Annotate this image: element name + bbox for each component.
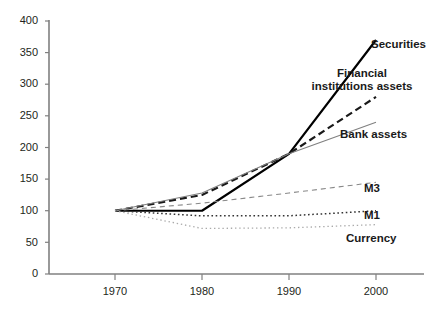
- x-tick-label-2000: 2000: [351, 285, 401, 297]
- x-tick-label-1990: 1990: [264, 285, 314, 297]
- series-label-currency: Currency: [346, 232, 397, 245]
- y-tick-label-100: 100: [4, 204, 38, 216]
- series-label-m3: M3: [364, 182, 380, 195]
- y-tick-label-300: 300: [4, 77, 38, 89]
- series-label-securities: Securities: [371, 38, 426, 51]
- x-tick-label-1980: 1980: [177, 285, 227, 297]
- series-line-m3: [115, 182, 376, 210]
- x-tick-label-1970: 1970: [90, 285, 140, 297]
- y-tick-label-0: 0: [4, 267, 38, 279]
- series-label-bank-assets: Bank assets: [340, 128, 407, 141]
- y-tick-label-250: 250: [4, 109, 38, 121]
- y-tick-label-50: 50: [4, 236, 38, 248]
- line-chart: 400 350 300 250 200 150 100 50 0 1970 19…: [0, 0, 441, 312]
- y-tick-label-150: 150: [4, 172, 38, 184]
- series-line-securities: [115, 40, 376, 211]
- y-tick-label-200: 200: [4, 141, 38, 153]
- series-label-financial-institutions-assets: Financial institutions assets: [300, 67, 424, 92]
- x-axis-ticks: [115, 274, 376, 280]
- y-tick-label-350: 350: [4, 46, 38, 58]
- series-line-bank-assets: [115, 122, 376, 211]
- series-label-financial-institutions-assets-line2: institutions assets: [312, 80, 413, 92]
- y-tick-label-400: 400: [4, 14, 38, 26]
- series-label-m1: M1: [364, 209, 380, 222]
- series-label-financial-institutions-assets-line1: Financial: [337, 67, 387, 79]
- series-line-financial-institutions-assets: [115, 97, 376, 211]
